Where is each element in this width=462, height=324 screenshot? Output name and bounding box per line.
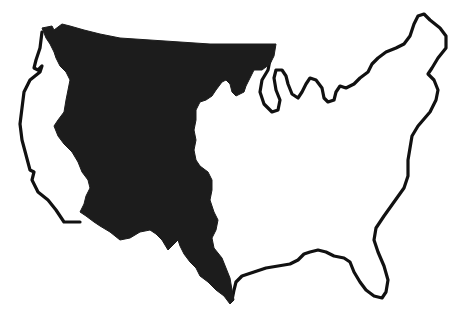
us-map [0, 0, 462, 324]
highlighted-region [42, 24, 276, 304]
us-map-svg [0, 0, 462, 324]
